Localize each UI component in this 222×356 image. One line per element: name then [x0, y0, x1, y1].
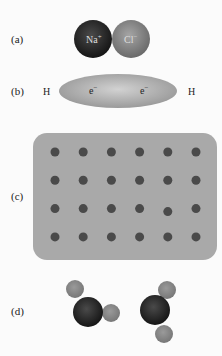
lattice-ion	[51, 148, 60, 157]
lattice-ion	[51, 176, 60, 185]
lattice-ion	[192, 232, 201, 241]
lattice-ion	[163, 148, 172, 157]
large-atom	[140, 295, 170, 325]
lattice-ion	[135, 176, 144, 185]
panel-c: (c)	[11, 133, 217, 260]
panel-label-b: (b)	[11, 85, 24, 98]
lattice-ion	[135, 204, 144, 213]
lattice-ion	[163, 176, 172, 185]
lattice-ion	[135, 232, 144, 241]
panel-label-d: (d)	[11, 305, 24, 318]
hydrogen-right: H	[188, 86, 195, 97]
molecule-1	[66, 280, 120, 327]
lattice-ion	[79, 232, 88, 241]
electron-cloud	[59, 74, 177, 108]
hydrogen-left: H	[43, 86, 50, 97]
lattice-ion	[163, 232, 172, 241]
lattice-ion	[107, 148, 116, 157]
lattice-ion	[107, 204, 116, 213]
lattice-ion	[192, 148, 201, 157]
bonding-diagram: (a) Na+ Cl− (b) H H e− e− (c) (d)	[0, 0, 222, 356]
panel-b: (b) H H e− e−	[11, 74, 195, 108]
lattice-ion	[79, 176, 88, 185]
lattice-ion	[79, 148, 88, 157]
lattice-ion	[51, 232, 60, 241]
small-atom	[66, 280, 84, 298]
large-atom	[73, 297, 103, 327]
panel-label-c: (c)	[11, 190, 24, 203]
electron-sea	[33, 133, 217, 260]
small-atom	[155, 325, 173, 343]
lattice-ion	[163, 207, 172, 216]
lattice-ion	[79, 204, 88, 213]
lattice-ion	[51, 204, 60, 213]
lattice-ion	[192, 176, 201, 185]
molecule-2	[140, 281, 176, 343]
small-atom	[102, 304, 120, 322]
lattice-ion	[107, 176, 116, 185]
panel-d: (d)	[11, 280, 176, 343]
panel-label-a: (a)	[11, 33, 24, 46]
lattice-ion	[107, 232, 116, 241]
panel-a: (a) Na+ Cl−	[11, 20, 150, 58]
lattice-ion	[192, 204, 201, 213]
lattice-ion	[135, 148, 144, 157]
